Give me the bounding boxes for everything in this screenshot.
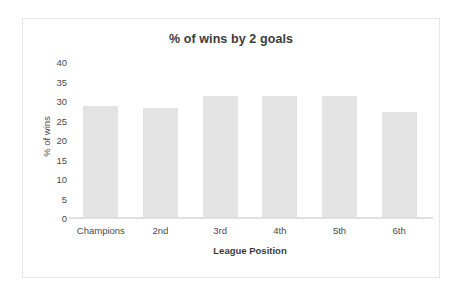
y-axis-tick-label: 35 <box>41 78 67 88</box>
bar <box>262 96 297 219</box>
y-axis-tick-label: 30 <box>41 97 67 107</box>
chart-title: % of wins by 2 goals <box>23 32 439 46</box>
x-axis-tick-label: Champions <box>71 225 131 236</box>
bar <box>322 96 357 219</box>
plot-area <box>71 63 429 219</box>
x-axis-title: League Position <box>71 245 429 256</box>
x-axis-tick-label: 6th <box>369 225 429 236</box>
x-axis-tick-label: 5th <box>310 225 370 236</box>
y-axis-tick-label: 10 <box>41 175 67 185</box>
chart-frame: % of wins by 2 goals % of wins 403530252… <box>22 18 440 278</box>
bar <box>83 106 118 219</box>
y-axis-tick-labels: 4035302520151050 <box>41 63 67 219</box>
y-axis-tick-label: 25 <box>41 117 67 127</box>
bar <box>203 96 238 219</box>
bar <box>382 112 417 219</box>
y-axis-tick-label: 40 <box>41 58 67 68</box>
y-axis-tick-label: 0 <box>41 214 67 224</box>
y-axis-tick-label: 5 <box>41 195 67 205</box>
x-axis-tick-label: 2nd <box>131 225 191 236</box>
y-axis-tick-label: 20 <box>41 136 67 146</box>
y-axis-tick-label: 15 <box>41 156 67 166</box>
x-axis-tick-label: 4th <box>250 225 310 236</box>
x-axis-line <box>69 217 433 219</box>
x-axis-tick-label: 3rd <box>190 225 250 236</box>
x-axis-tick-labels: Champions2nd3rd4th5th6th <box>71 225 429 241</box>
bar <box>143 108 178 219</box>
